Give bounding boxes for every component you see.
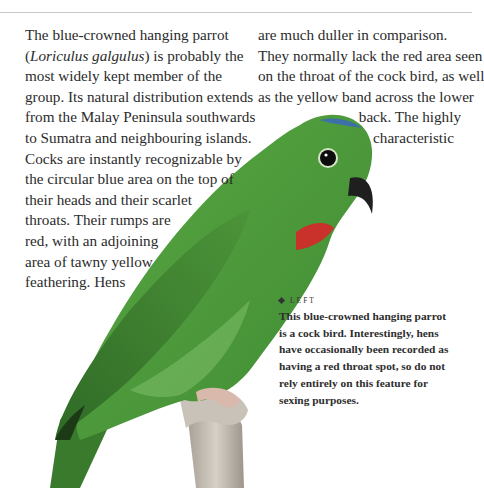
species-name: Loriculus galgulus xyxy=(30,47,144,64)
body-line: the circular blue area on the top of xyxy=(25,169,255,190)
body-line: red, with an adjoining xyxy=(25,231,255,252)
body-line: are much duller in comparison. xyxy=(258,25,484,46)
body-line: to Sumatra and neighbouring islands. xyxy=(25,128,255,149)
caption-line: sexing purposes. xyxy=(279,392,448,409)
body-line: The blue-crowned hanging parrot xyxy=(25,25,255,46)
body-line: back. The highly xyxy=(258,107,461,128)
body-line: feathering. Hens xyxy=(25,272,255,293)
body-line: on the throat of the cock bird, as well xyxy=(258,66,484,87)
body-line: group. Its natural distribution extends xyxy=(25,87,255,108)
caption-tag: LEFT xyxy=(279,296,448,305)
caption-line: is a cock bird. Interestingly, hens xyxy=(279,325,448,342)
body-line: throats. Their rumps are xyxy=(25,210,255,231)
body-line: their heads and their scarlet xyxy=(25,190,255,211)
caption-line: This blue-crowned hanging parrot xyxy=(279,308,448,325)
photo-caption: LEFT This blue-crowned hanging parrot is… xyxy=(279,296,448,408)
caption-line: having a red throat spot, so do not xyxy=(279,358,448,375)
diamond-bullet-icon xyxy=(278,297,285,304)
body-line: (Loriculus galgulus) is probably the xyxy=(25,46,255,67)
caption-line: have occasionally been recorded as xyxy=(279,341,448,358)
caption-position-label: LEFT xyxy=(290,296,316,305)
body-line: most widely kept member of the xyxy=(25,66,255,87)
body-line: as the yellow band across the lower xyxy=(258,87,484,108)
body-line: area of tawny yellow xyxy=(25,252,255,273)
body-line: from the Malay Peninsula southwards xyxy=(25,107,255,128)
caption-line: rely entirely on this feature for xyxy=(279,375,448,392)
body-line: characteristic xyxy=(258,128,454,149)
caption-body: This blue-crowned hanging parrot is a co… xyxy=(279,308,448,408)
body-line: They normally lack the red area seen xyxy=(258,46,484,67)
body-text-right-column: are much duller in comparison. They norm… xyxy=(258,25,484,149)
body-line: Cocks are instantly recognizable by xyxy=(25,149,255,170)
body-text-left-column: The blue-crowned hanging parrot (Loricul… xyxy=(25,25,255,293)
